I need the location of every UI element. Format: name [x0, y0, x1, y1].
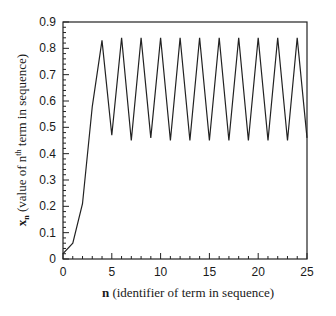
y-axis: 00.10.20.30.40.50.60.70.80.9: [39, 15, 69, 266]
y-tick-label: 0.8: [39, 41, 56, 55]
x-axis: 0510152025: [60, 253, 314, 279]
y-tick-label: 0.3: [39, 173, 56, 187]
y-tick-label: 0.4: [39, 147, 56, 161]
chart: 00.10.20.30.40.50.60.70.80.9 0510152025 …: [0, 0, 336, 316]
x-axis-title: n (identifier of term in sequence): [102, 285, 274, 300]
series-line: [63, 38, 307, 254]
y-axis-title: xn (value of nth term in sequence): [14, 54, 31, 226]
x-tick-label: 5: [108, 265, 115, 279]
y-tick-label: 0.9: [39, 15, 56, 29]
x-tick-label: 25: [300, 265, 314, 279]
x-tick-label: 15: [203, 265, 217, 279]
y-tick-label: 0.7: [39, 68, 56, 82]
y-tick-label: 0: [49, 252, 56, 266]
x-tick-label: 20: [252, 265, 266, 279]
x-tick-label: 0: [60, 265, 67, 279]
y-tick-label: 0.6: [39, 94, 56, 108]
x-tick-label: 10: [154, 265, 168, 279]
y-tick-label: 0.2: [39, 199, 56, 213]
y-tick-label: 0.1: [39, 226, 56, 240]
y-tick-label: 0.5: [39, 120, 56, 134]
